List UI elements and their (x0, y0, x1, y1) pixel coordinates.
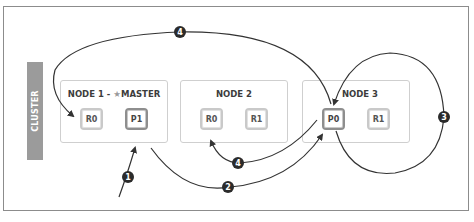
node-2: NODE 2 R0 R1 (180, 80, 288, 143)
node-1-title: NODE 1 - ★MASTER (61, 89, 167, 99)
cluster-label: CLUSTER (31, 90, 40, 131)
shard-replica-r0: R0 (80, 108, 103, 130)
step-badge-4-bottom: 4 (232, 157, 244, 169)
shard-primary-p0: P0 (322, 108, 345, 130)
shard-replica-r1: R1 (245, 108, 268, 130)
node-3-title: NODE 3 (303, 89, 409, 99)
shard-replica-r0: R0 (200, 108, 223, 130)
step-badge-2: 2 (222, 181, 234, 193)
shard-replica-r1: R1 (367, 108, 390, 130)
node-2-title: NODE 2 (181, 89, 287, 99)
star-icon: ★ (113, 89, 121, 99)
node-1: NODE 1 - ★MASTER R0 P1 (60, 80, 168, 143)
cluster-label-bar: CLUSTER (27, 62, 43, 160)
step-badge-4-top: 4 (174, 26, 186, 38)
step-badge-1: 1 (122, 171, 134, 183)
node-3: NODE 3 P0 R1 (302, 80, 410, 143)
shard-primary-p1: P1 (125, 108, 148, 130)
step-badge-3: 3 (438, 111, 450, 123)
